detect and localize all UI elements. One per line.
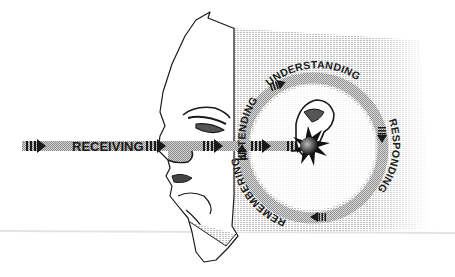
- receiving-label: RECEIVING: [72, 139, 144, 154]
- head-profile-icon: [158, 12, 238, 262]
- listening-process-diagram: RECEIVING ATTENDING UNDE: [0, 0, 455, 277]
